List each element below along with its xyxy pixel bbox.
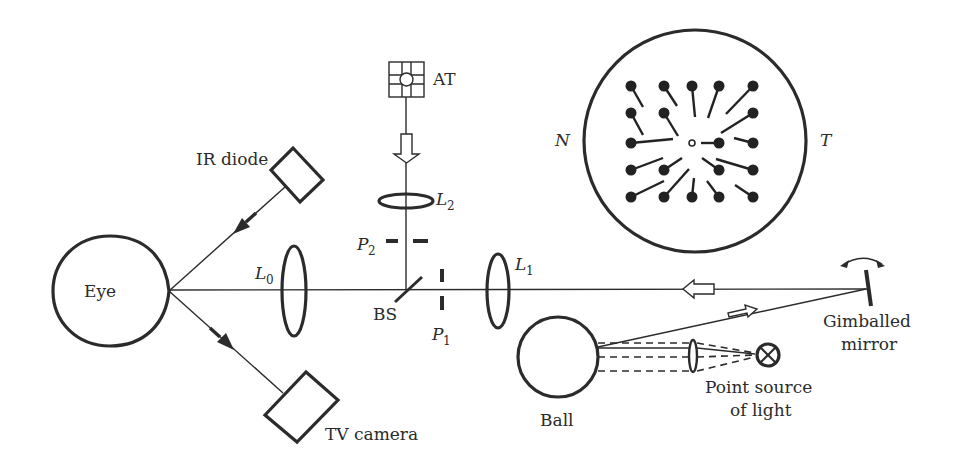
left-arrow-icon — [683, 280, 714, 298]
svg-text:2: 2 — [368, 244, 376, 258]
rotate-left-arrow-icon — [840, 260, 849, 268]
svg-text:of light: of light — [730, 400, 792, 420]
down-arrow-icon — [394, 134, 419, 163]
svg-text:Ball: Ball — [540, 410, 574, 430]
svg-text:L: L — [254, 263, 266, 283]
collimated-beam — [598, 343, 755, 371]
svg-text:2: 2 — [447, 199, 455, 213]
collimating-lens — [689, 340, 697, 372]
svg-text:L: L — [435, 189, 447, 209]
tv-camera-label: TV camera — [325, 424, 418, 444]
rotate-right-arrow-icon — [876, 260, 885, 268]
center-marker — [689, 140, 695, 146]
temporal-label: T — [820, 130, 833, 150]
svg-text:L: L — [514, 254, 526, 274]
lens-l1: L 1 — [487, 254, 534, 328]
beam-splitter: BS — [373, 277, 422, 324]
eye-label: Eye — [84, 281, 116, 301]
svg-text:Point source: Point source — [705, 377, 812, 397]
svg-text:1: 1 — [443, 334, 451, 348]
lens-l0: L 0 — [254, 246, 306, 336]
pupil-p2: P 2 — [356, 234, 428, 258]
target-pattern: N T — [554, 30, 833, 252]
svg-text:Gimballed: Gimballed — [823, 311, 911, 331]
nasal-label: N — [554, 130, 571, 150]
optical-setup-diagram: Eye IR diode TV camera L 0 AT L — [0, 0, 971, 458]
ir-diode: IR diode — [169, 148, 323, 291]
svg-text:0: 0 — [266, 273, 274, 287]
at-target: AT — [389, 62, 456, 97]
ir-diode-label: IR diode — [196, 149, 268, 169]
lens-l2: L 2 — [379, 189, 455, 213]
eye: Eye — [53, 236, 169, 346]
main-optical-axis — [169, 289, 867, 290]
at-label: AT — [432, 69, 456, 89]
svg-text:BS: BS — [373, 304, 397, 324]
gimballed-mirror: Gimballed mirror — [823, 258, 911, 354]
ball: Ball — [518, 317, 598, 430]
svg-text:1: 1 — [526, 264, 534, 278]
svg-text:mirror: mirror — [841, 334, 898, 354]
pupil-p1: P 1 — [431, 269, 451, 348]
